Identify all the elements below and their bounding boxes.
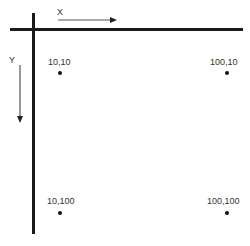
point-label: 100,100 [207,196,240,206]
point-label: 10,100 [47,196,75,206]
y-axis-line [32,13,35,234]
x-direction-arrow-icon [58,17,118,23]
x-axis-line [10,28,243,31]
y-direction-arrow-icon [17,65,23,125]
point-label: 10,10 [48,57,71,67]
point-label: 100,10 [210,57,238,67]
point-dot [58,211,62,215]
point-dot [58,71,62,75]
y-axis-label: Y [9,55,15,65]
point-dot [225,211,229,215]
point-dot [225,71,229,75]
x-axis-label: X [57,7,63,17]
